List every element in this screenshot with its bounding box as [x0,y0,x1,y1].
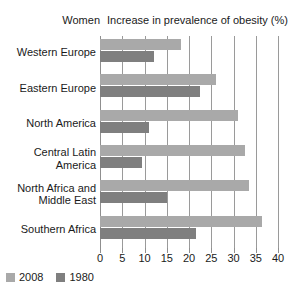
bar-2008 [100,145,245,156]
category-label-line: North Africa and [0,182,96,195]
bar-group [100,142,278,177]
plot-area [100,36,278,248]
category-label-line: Eastern Europe [0,82,96,95]
category-label-line: Southern Africa [0,223,96,236]
category-label: Southern Africa [0,223,96,236]
category-label-line: Western Europe [0,46,96,59]
x-tick-label: 15 [161,252,173,265]
chart-header: Women Increase in prevalence of obesity … [0,13,305,29]
category-label-line: America [0,159,96,172]
bar-2008 [100,39,181,50]
chart-title: Increase in prevalence of obesity (%) [107,13,288,27]
x-tick-label: 5 [119,252,125,265]
bar-1980 [100,122,149,133]
x-tick-label: 20 [183,252,195,265]
chart-legend: 20081980 [6,270,102,284]
bar-1980 [100,192,167,203]
obesity-prevalence-bar-chart: Women Increase in prevalence of obesity … [0,0,305,289]
category-axis-labels: Western EuropeEastern EuropeNorth Americ… [0,36,96,248]
bar-1980 [100,51,154,62]
gridline-40 [278,36,279,248]
bar-group [100,36,278,71]
bar-group [100,177,278,212]
category-label-line: Central Latin [0,146,96,159]
x-tick-label: 30 [227,252,239,265]
bar-2008 [100,180,249,191]
bar-group [100,71,278,106]
x-tick-label: 40 [272,252,284,265]
bar-2008 [100,74,216,85]
x-tick-label: 25 [205,252,217,265]
category-label-line: Middle East [0,194,96,207]
category-label: Eastern Europe [0,82,96,95]
bar-groups [100,36,278,248]
bar-2008 [100,110,238,121]
category-label: Western Europe [0,46,96,59]
chart-group-label: Women [0,13,100,27]
legend-item-2008: 2008 [6,271,43,283]
bar-group [100,107,278,142]
legend-swatch-icon [56,273,65,282]
bar-2008 [100,216,262,227]
legend-swatch-icon [6,273,15,282]
legend-label: 2008 [19,271,43,283]
x-tick-label: 0 [97,252,103,265]
category-label-line: North America [0,117,96,130]
category-label: North America [0,117,96,130]
legend-item-1980: 1980 [56,271,93,283]
x-tick-label: 35 [250,252,262,265]
legend-label: 1980 [69,271,93,283]
x-axis-tick-labels: 0510152025303540 [100,252,278,266]
bar-1980 [100,86,200,97]
category-label: Central LatinAmerica [0,146,96,171]
category-label: North Africa andMiddle East [0,182,96,207]
x-tick-label: 10 [138,252,150,265]
bar-1980 [100,228,196,239]
bar-1980 [100,157,142,168]
bar-group [100,213,278,248]
